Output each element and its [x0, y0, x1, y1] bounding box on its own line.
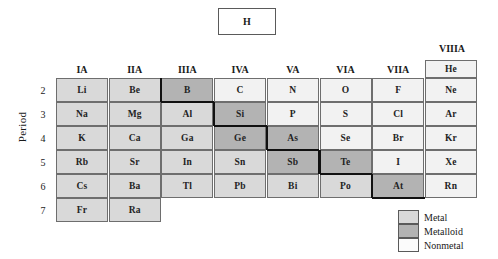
element-cell-rb[interactable]: Rb: [56, 150, 108, 174]
element-symbol: Fr: [77, 205, 87, 215]
element-cell-c[interactable]: C: [214, 78, 266, 102]
legend-swatch-metal: [398, 210, 419, 224]
element-symbol: Sr: [130, 157, 140, 167]
metalloid-divider-segment: [213, 102, 215, 126]
element-symbol: Xe: [445, 157, 456, 167]
element-cell-in[interactable]: In: [161, 150, 213, 174]
element-cell-sr[interactable]: Sr: [109, 150, 161, 174]
element-cell-sn[interactable]: Sn: [214, 150, 266, 174]
element-cell-po[interactable]: Po: [320, 174, 372, 198]
element-symbol: Tl: [183, 181, 192, 191]
element-cell-n[interactable]: N: [267, 78, 319, 102]
period-label-7: 7: [36, 198, 50, 222]
group-header-viia: VIIA: [372, 60, 424, 78]
element-cell-kr[interactable]: Kr: [425, 126, 477, 150]
element-symbol: As: [287, 133, 298, 143]
element-cell-as[interactable]: As: [267, 126, 319, 150]
legend-swatch-metalloid: [398, 224, 419, 238]
element-cell-cl[interactable]: Cl: [372, 102, 424, 126]
element-symbol: K: [78, 133, 86, 143]
element-cell-bi[interactable]: Bi: [267, 174, 319, 198]
period-label-3: 3: [36, 102, 50, 126]
element-cell-f[interactable]: F: [372, 78, 424, 102]
metalloid-divider-segment: [160, 78, 162, 102]
element-symbol: Rb: [76, 157, 89, 167]
element-cell-li[interactable]: Li: [56, 78, 108, 102]
period-label-4: 4: [36, 126, 50, 150]
element-symbol: Be: [129, 85, 140, 95]
element-cell-ra[interactable]: Ra: [109, 198, 161, 222]
element-symbol: Ne: [445, 85, 456, 95]
element-cell-cs[interactable]: Cs: [56, 174, 108, 198]
group-header-viiia: VIIIA: [426, 40, 478, 56]
element-cell-ca[interactable]: Ca: [109, 126, 161, 150]
element-symbol: Cs: [77, 181, 88, 191]
element-symbol: N: [289, 85, 296, 95]
legend-label-metal: Metal: [424, 210, 447, 224]
element-cell-te[interactable]: Te: [320, 150, 372, 174]
element-cell-ge[interactable]: Ge: [214, 126, 266, 150]
element-cell-se[interactable]: Se: [320, 126, 372, 150]
period-label-5: 5: [36, 150, 50, 174]
metalloid-divider-segment: [266, 126, 268, 150]
element-symbol: Mg: [128, 109, 142, 119]
element-cell-na[interactable]: Na: [56, 102, 108, 126]
element-symbol: O: [342, 85, 350, 95]
element-cell-he[interactable]: He: [425, 60, 477, 78]
metalloid-divider-segment: [320, 173, 373, 175]
element-symbol: S: [343, 109, 348, 119]
group-header-via: VIA: [320, 60, 372, 78]
element-symbol: B: [184, 85, 191, 95]
element-symbol: I: [396, 157, 400, 167]
element-symbol: Te: [340, 157, 350, 167]
element-symbol: Sn: [235, 157, 246, 167]
group-header-iia: IIA: [109, 60, 161, 78]
element-cell-mg[interactable]: Mg: [109, 102, 161, 126]
element-cell-si[interactable]: Si: [214, 102, 266, 126]
element-symbol: Se: [341, 133, 351, 143]
element-symbol: Bi: [288, 181, 297, 191]
group-header-iiia: IIIA: [161, 60, 213, 78]
element-cell-s[interactable]: S: [320, 102, 372, 126]
element-cell-xe[interactable]: Xe: [425, 150, 477, 174]
metalloid-divider-segment: [372, 197, 425, 199]
element-cell-pb[interactable]: Pb: [214, 174, 266, 198]
element-cell-at[interactable]: At: [372, 174, 424, 198]
hydrogen-symbol: H: [243, 16, 251, 27]
element-cell-fr[interactable]: Fr: [56, 198, 108, 222]
element-cell-sb[interactable]: Sb: [267, 150, 319, 174]
element-symbol: Kr: [445, 133, 457, 143]
element-symbol: He: [445, 64, 457, 74]
element-symbol: In: [183, 157, 192, 167]
element-symbol: Ba: [129, 181, 141, 191]
element-cell-ar[interactable]: Ar: [425, 102, 477, 126]
element-cell-b[interactable]: B: [161, 78, 213, 102]
element-cell-k[interactable]: K: [56, 126, 108, 150]
metalloid-divider-segment: [318, 150, 320, 174]
element-cell-o[interactable]: O: [320, 78, 372, 102]
element-cell-br[interactable]: Br: [372, 126, 424, 150]
element-cell-al[interactable]: Al: [161, 102, 213, 126]
element-symbol: Ca: [129, 133, 141, 143]
element-symbol: Ga: [181, 133, 194, 143]
element-symbol: Ar: [445, 109, 456, 119]
metalloid-divider-segment: [214, 125, 267, 127]
element-symbol: Br: [393, 133, 404, 143]
element-symbol: Al: [182, 109, 192, 119]
element-cell-tl[interactable]: Tl: [161, 174, 213, 198]
element-cell-ba[interactable]: Ba: [109, 174, 161, 198]
legend-label-nonmetal: Nonmetal: [424, 238, 463, 252]
element-cell-rn[interactable]: Rn: [425, 174, 477, 198]
hydrogen-cell[interactable]: H: [218, 8, 276, 35]
element-cell-p[interactable]: P: [267, 102, 319, 126]
element-cell-be[interactable]: Be: [109, 78, 161, 102]
legend-swatch-nonmetal: [398, 238, 419, 252]
element-symbol: At: [393, 181, 403, 191]
element-symbol: C: [237, 85, 244, 95]
metalloid-divider-segment: [161, 101, 214, 103]
element-symbol: Na: [76, 109, 88, 119]
element-cell-ga[interactable]: Ga: [161, 126, 213, 150]
element-symbol: P: [290, 109, 296, 119]
element-cell-ne[interactable]: Ne: [425, 78, 477, 102]
element-cell-i[interactable]: I: [372, 150, 424, 174]
